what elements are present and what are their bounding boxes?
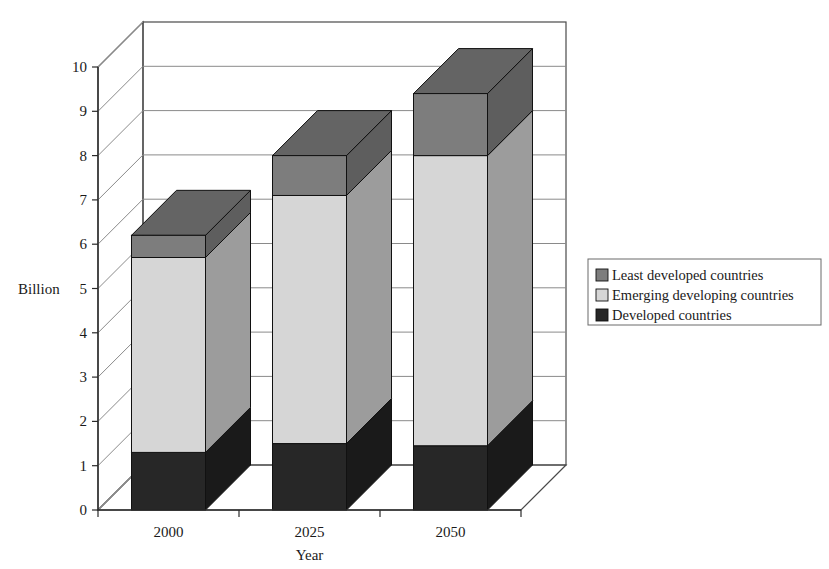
legend-swatch — [596, 269, 608, 281]
y-tick-label: 0 — [80, 502, 88, 518]
y-tick-label: 3 — [80, 369, 88, 385]
bar-segment-front-face — [414, 94, 488, 156]
legend-item-label: Least developed countries — [612, 267, 764, 283]
bars-group — [132, 49, 533, 510]
bar-segment-front-face — [132, 235, 206, 257]
chart-canvas: 012345678910 Billion 200020252050 Year L… — [0, 0, 829, 569]
y-tick-label: 6 — [80, 236, 88, 252]
y-tick-label: 8 — [80, 148, 88, 164]
gridline-depth — [98, 111, 143, 156]
legend-item-label: Emerging developing countries — [612, 287, 794, 303]
x-axis-title: Year — [296, 547, 324, 563]
bar-segment[interactable] — [414, 111, 533, 446]
bar-column[interactable] — [132, 190, 251, 510]
gridline-depth — [98, 22, 143, 67]
bar-segment-side-face — [347, 150, 392, 443]
legend-item[interactable]: Developed countries — [596, 307, 732, 323]
legend-swatch — [596, 289, 608, 301]
bar-segment-front-face — [273, 444, 347, 510]
chart-legend: Least developed countriesEmerging develo… — [588, 259, 821, 325]
x-tick-label: 2025 — [295, 524, 325, 540]
bar-column[interactable] — [273, 111, 392, 510]
bar-segment-front-face — [273, 195, 347, 443]
y-tick-label: 1 — [80, 458, 88, 474]
y-axis-title: Billion — [18, 281, 60, 297]
bar-segment-front-face — [132, 257, 206, 452]
legend-swatch — [596, 309, 608, 321]
bar-segment-front-face — [273, 156, 347, 196]
y-tick-label: 5 — [80, 281, 88, 297]
population-stacked-bar-chart: 012345678910 Billion 200020252050 Year L… — [0, 0, 829, 569]
bar-segment-front-face — [414, 446, 488, 510]
bar-column[interactable] — [414, 49, 533, 510]
gridline-depth — [98, 155, 143, 200]
y-tick-label: 7 — [80, 192, 88, 208]
bar-segment-side-face — [488, 111, 533, 446]
y-tick-label: 9 — [80, 103, 88, 119]
gridline-depth — [98, 66, 143, 111]
y-tick-label: 10 — [72, 59, 87, 75]
bar-segment-front-face — [132, 452, 206, 510]
y-tick-label: 4 — [80, 325, 88, 341]
bar-segment-front-face — [414, 156, 488, 446]
x-tick-label: 2000 — [154, 524, 184, 540]
y-axis: 012345678910 — [72, 59, 98, 518]
legend-item[interactable]: Least developed countries — [596, 267, 764, 283]
x-axis: 200020252050 — [98, 510, 521, 540]
x-tick-label: 2050 — [436, 524, 466, 540]
legend-item-label: Developed countries — [612, 307, 732, 323]
y-tick-label: 2 — [80, 413, 88, 429]
legend-item[interactable]: Emerging developing countries — [596, 287, 794, 303]
